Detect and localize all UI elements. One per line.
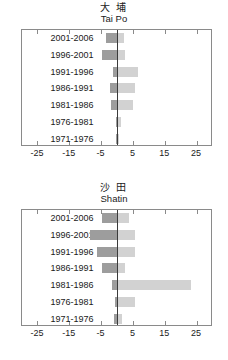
category-label: 1971-1976	[51, 134, 94, 144]
bar-row: 1981-1986	[22, 277, 211, 294]
bar-row: 1996-2001	[22, 47, 211, 64]
chart-title-shatin: 沙 田Shatin	[0, 182, 228, 204]
category-label: 2001-2006	[51, 213, 94, 223]
bar-negative	[102, 213, 118, 223]
bar-row: 2001-2006	[22, 210, 211, 227]
bar-row: 1981-1986	[22, 97, 211, 114]
axis-tick-label: 15	[159, 148, 169, 158]
chart-title-chinese: 大 埔	[0, 2, 228, 14]
axis-tick-label: 25	[191, 328, 201, 338]
bar-positive	[118, 230, 136, 240]
axis-tick-label: 25	[191, 148, 201, 158]
bar-row: 1991-1996	[22, 63, 211, 80]
axis-tick-label: -5	[97, 148, 105, 158]
chart-title-english: Shatin	[0, 194, 228, 205]
category-label: 1991-1996	[51, 247, 94, 257]
bar-row: 2001-2006	[22, 30, 211, 47]
bar-positive	[118, 83, 136, 93]
bar-positive	[118, 297, 136, 307]
category-label: 1986-1991	[51, 83, 94, 93]
bar-negative	[102, 50, 118, 60]
category-label: 1991-1996	[51, 67, 94, 77]
bar-rows: 2001-20061996-20011991-19961986-19911981…	[22, 210, 211, 325]
category-label: 1971-1976	[51, 314, 94, 324]
bar-positive	[118, 263, 126, 273]
category-label: 1981-1986	[51, 280, 94, 290]
bar-row: 1971-1976	[22, 310, 211, 327]
category-label: 1976-1981	[51, 117, 94, 127]
bar-positive	[118, 247, 136, 257]
bar-negative	[97, 247, 118, 257]
category-label: 1986-1991	[51, 263, 94, 273]
plot-area-shatin: 2001-20061996-20011991-19961986-19911981…	[21, 209, 212, 326]
bar-positive	[118, 50, 126, 60]
bar-row: 1971-1976	[22, 130, 211, 147]
axis-tick-label: -25	[30, 328, 43, 338]
chart-title-tai-po: 大 埔Tai Po	[0, 2, 228, 24]
bar-negative	[102, 263, 118, 273]
plot-area-tai-po: 2001-20061996-20011991-19961986-19911981…	[21, 29, 212, 146]
x-axis-tai-po: -25-15-551525	[0, 148, 228, 164]
bar-row: 1976-1981	[22, 294, 211, 311]
bar-negative	[110, 83, 118, 93]
figure-root: 大 埔Tai Po2001-20061996-20011991-19961986…	[0, 0, 228, 360]
axis-tick-label: -15	[62, 328, 75, 338]
bar-positive	[118, 100, 134, 110]
bar-negative	[90, 230, 117, 240]
bar-positive	[118, 213, 129, 223]
axis-tick-label: 15	[159, 328, 169, 338]
bar-positive	[118, 33, 124, 43]
bar-negative	[106, 33, 117, 43]
bar-row: 1986-1991	[22, 260, 211, 277]
category-label: 1981-1986	[51, 100, 94, 110]
bar-row: 1986-1991	[22, 80, 211, 97]
bar-positive	[118, 117, 122, 127]
chart-panel-tai-po: 大 埔Tai Po2001-20061996-20011991-19961986…	[0, 0, 228, 180]
chart-panel-shatin: 沙 田Shatin2001-20061996-20011991-19961986…	[0, 180, 228, 360]
axis-tick-label: 5	[130, 148, 135, 158]
axis-tick-label: -15	[62, 148, 75, 158]
bar-positive	[118, 67, 139, 77]
category-label: 1976-1981	[51, 297, 94, 307]
bar-positive	[118, 280, 191, 290]
category-label: 1996-2001	[51, 230, 94, 240]
category-label: 1996-2001	[51, 50, 94, 60]
bar-row: 1976-1981	[22, 114, 211, 131]
x-axis-shatin: -25-15-551525	[0, 328, 228, 344]
axis-tick-label: -25	[30, 148, 43, 158]
bar-row: 1996-2001	[22, 227, 211, 244]
chart-title-chinese: 沙 田	[0, 182, 228, 194]
category-label: 2001-2006	[51, 33, 94, 43]
axis-tick-label: 5	[130, 328, 135, 338]
chart-title-english: Tai Po	[0, 14, 228, 25]
axis-tick-label: -5	[97, 328, 105, 338]
bar-positive	[118, 134, 120, 144]
bar-rows: 2001-20061996-20011991-19961986-19911981…	[22, 30, 211, 145]
bar-positive	[118, 314, 123, 324]
bar-row: 1991-1996	[22, 243, 211, 260]
